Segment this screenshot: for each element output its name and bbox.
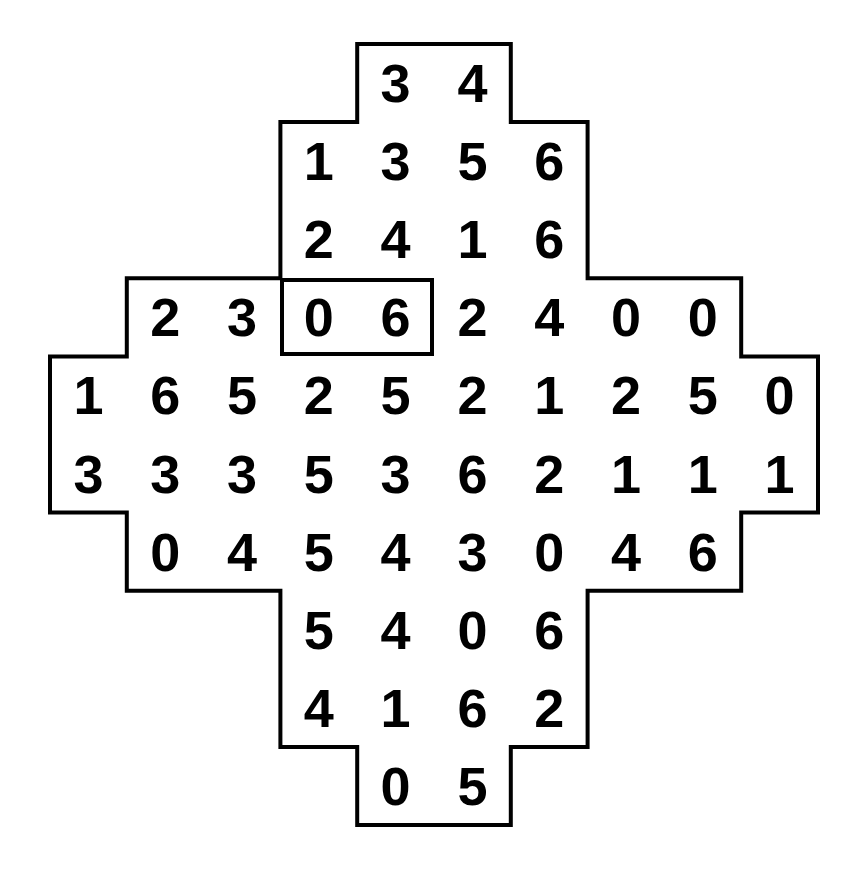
grid-cell-r5-c2[interactable]: 3 [204,435,281,513]
grid-cell-r7-c3[interactable]: 5 [280,591,357,669]
grid-cell-r6-c1[interactable]: 0 [127,513,204,591]
grid-cell-r4-c8[interactable]: 5 [664,356,741,434]
grid-cell-r3-c8[interactable]: 0 [664,278,741,356]
grid-cell-r1-c3[interactable]: 1 [280,122,357,200]
grid-cell-r4-c3[interactable]: 2 [280,356,357,434]
grid-cell-r2-c5[interactable]: 1 [434,200,511,278]
grid-cell-r4-c7[interactable]: 2 [588,356,665,434]
grid-cell-r2-c3[interactable]: 2 [280,200,357,278]
grid-cell-r8-c5[interactable]: 6 [434,669,511,747]
grid-cell-r6-c8[interactable]: 6 [664,513,741,591]
grid-cell-r4-c0[interactable]: 1 [50,356,127,434]
grid-cell-r3-c6[interactable]: 4 [511,278,588,356]
grid-cell-r5-c3[interactable]: 5 [280,435,357,513]
grid-cell-r7-c6[interactable]: 6 [511,591,588,669]
grid-cell-r4-c1[interactable]: 6 [127,356,204,434]
grid-cell-r1-c6[interactable]: 6 [511,122,588,200]
grid-cell-r5-c6[interactable]: 2 [511,435,588,513]
grid-cell-r3-c5[interactable]: 2 [434,278,511,356]
grid-cell-r2-c4[interactable]: 4 [357,200,434,278]
grid-cell-r6-c3[interactable]: 5 [280,513,357,591]
grid-cell-r6-c7[interactable]: 4 [588,513,665,591]
grid-cell-r8-c3[interactable]: 4 [280,669,357,747]
grid-cell-r6-c5[interactable]: 3 [434,513,511,591]
grid-cell-r5-c4[interactable]: 3 [357,435,434,513]
grid-cell-r4-c6[interactable]: 1 [511,356,588,434]
grid-cell-layer: 3413562416230624001652521250333536211104… [0,0,863,874]
grid-cell-r5-c8[interactable]: 1 [664,435,741,513]
grid-cell-r4-c9[interactable]: 0 [741,356,818,434]
grid-cell-r5-c5[interactable]: 6 [434,435,511,513]
grid-cell-r3-c2[interactable]: 3 [204,278,281,356]
grid-cell-r3-c3[interactable]: 0 [280,278,357,356]
grid-cell-r5-c1[interactable]: 3 [127,435,204,513]
puzzle-canvas: 3413562416230624001652521250333536211104… [0,0,863,874]
grid-cell-r0-c5[interactable]: 4 [434,44,511,122]
grid-cell-r5-c0[interactable]: 3 [50,435,127,513]
grid-cell-r7-c5[interactable]: 0 [434,591,511,669]
grid-cell-r4-c5[interactable]: 2 [434,356,511,434]
grid-cell-r9-c5[interactable]: 5 [434,747,511,825]
grid-cell-r5-c9[interactable]: 1 [741,435,818,513]
grid-cell-r3-c7[interactable]: 0 [588,278,665,356]
grid-cell-r4-c2[interactable]: 5 [204,356,281,434]
grid-cell-r8-c4[interactable]: 1 [357,669,434,747]
grid-cell-r7-c4[interactable]: 4 [357,591,434,669]
grid-cell-r3-c1[interactable]: 2 [127,278,204,356]
grid-cell-r1-c5[interactable]: 5 [434,122,511,200]
grid-cell-r5-c7[interactable]: 1 [588,435,665,513]
grid-cell-r6-c2[interactable]: 4 [204,513,281,591]
grid-cell-r8-c6[interactable]: 2 [511,669,588,747]
grid-cell-r6-c4[interactable]: 4 [357,513,434,591]
grid-cell-r1-c4[interactable]: 3 [357,122,434,200]
grid-cell-r6-c6[interactable]: 0 [511,513,588,591]
grid-cell-r2-c6[interactable]: 6 [511,200,588,278]
grid-cell-r4-c4[interactable]: 5 [357,356,434,434]
grid-cell-r3-c4[interactable]: 6 [357,278,434,356]
grid-cell-r9-c4[interactable]: 0 [357,747,434,825]
grid-cell-r0-c4[interactable]: 3 [357,44,434,122]
